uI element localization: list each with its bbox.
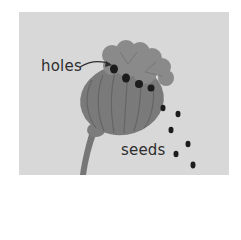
holes-label: holes [41, 59, 82, 74]
stem [80, 131, 97, 175]
seeds-label: seeds [121, 143, 166, 158]
falling-seeds [161, 105, 196, 169]
